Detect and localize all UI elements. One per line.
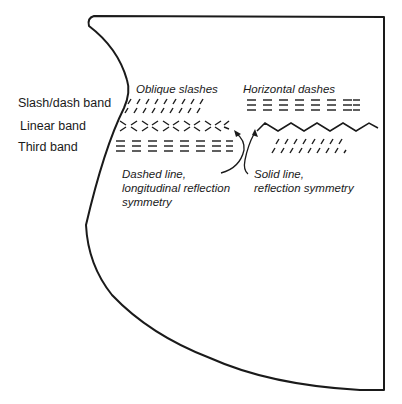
dashed-line-arrow: [221, 133, 244, 173]
oblique-slashes-annotation: Oblique slashes: [136, 82, 218, 96]
linear-band-label: Linear band: [20, 119, 86, 133]
oblique-slashes-lower-pattern: [272, 139, 346, 153]
horizontal-dashes-pattern: [247, 100, 360, 110]
solid-line-arrow: [244, 134, 254, 174]
solid-line-annotation-line1: Solid line,: [254, 167, 304, 181]
dashed-line-annotation-line1: Dashed line,: [122, 167, 186, 181]
third-band-label: Third band: [18, 140, 78, 154]
dashed-line-annotation-line2: longitudinal reflection: [122, 181, 230, 195]
vessel-profile-diagram: [0, 0, 402, 404]
horizontal-dashes-annotation: Horizontal dashes: [243, 82, 335, 96]
solid-line-annotation-line2: reflection symmetry: [254, 181, 354, 195]
slash-dash-band-label: Slash/dash band: [18, 96, 111, 110]
dashed-zigzag-pattern: [120, 121, 229, 131]
solid-zigzag-line: [257, 123, 378, 131]
dashed-line-annotation-line3: symmetry: [122, 195, 172, 209]
oblique-slashes-pattern: [125, 99, 203, 113]
third-band-dashes-pattern: [116, 141, 233, 151]
annotation-arrows: [221, 133, 254, 174]
